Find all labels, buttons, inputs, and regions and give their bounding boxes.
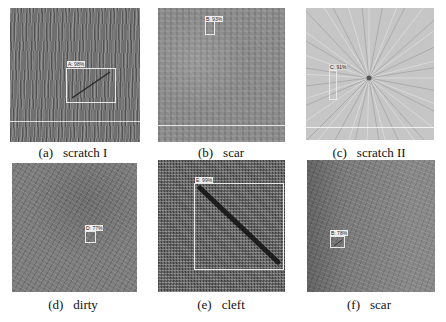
caption-c-name: scratch II <box>357 145 406 160</box>
detection-label-b: B: 93% <box>205 16 223 22</box>
caption-f: (f)scar <box>296 297 442 313</box>
caption-e-name: cleft <box>222 297 245 312</box>
caption-e: (e)cleft <box>148 297 294 313</box>
caption-d-name: dirty <box>73 297 98 312</box>
detection-label-e: E: 99% <box>195 177 213 183</box>
caption-a-tag: (a) <box>39 145 53 160</box>
caption-c: (c)scratch II <box>296 145 442 161</box>
caption-f-name: scar <box>370 297 391 312</box>
panel-c-image: C: 91% <box>306 8 434 140</box>
radial-scratch-lines <box>306 8 434 140</box>
caption-a-name: scratch I <box>63 145 107 160</box>
panel-e-image: E: 99% <box>158 160 285 292</box>
caption-c-tag: (c) <box>332 145 346 160</box>
caption-e-tag: (e) <box>197 297 211 312</box>
detection-box-c <box>329 70 337 100</box>
scar-defect-mark <box>307 160 435 292</box>
detection-label-c: C: 91% <box>329 64 347 70</box>
detection-box-d <box>85 231 96 243</box>
scan-line <box>306 127 434 128</box>
detection-box-b <box>205 21 215 35</box>
caption-a: (a)scratch I <box>0 145 146 161</box>
caption-b-name: scar <box>223 145 244 160</box>
scan-line <box>158 125 285 126</box>
scratch-defect-line <box>10 8 140 142</box>
caption-f-tag: (f) <box>347 297 360 312</box>
caption-b-tag: (b) <box>198 145 213 160</box>
panel-d-image: D: 77% <box>12 163 137 292</box>
caption-d-tag: (d) <box>48 297 63 312</box>
caption-b: (b)scar <box>148 145 294 161</box>
panel-a-image: A: 98% <box>10 8 140 142</box>
panel-f-image: B: 78% <box>307 160 435 292</box>
caption-d: (d)dirty <box>0 297 146 313</box>
detection-box-e <box>194 183 284 270</box>
detection-label-d: D: 77% <box>85 225 103 231</box>
panel-b-image: B: 93% <box>158 8 285 142</box>
